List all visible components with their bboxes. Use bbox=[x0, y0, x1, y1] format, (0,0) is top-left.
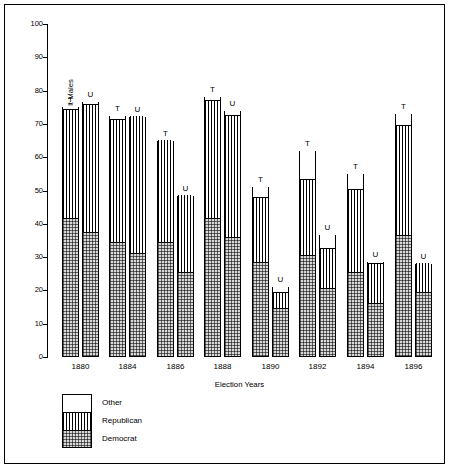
segment-divider bbox=[348, 189, 363, 190]
x-tick-label-1880: 1880 bbox=[66, 362, 96, 371]
legend-swatch-box bbox=[62, 394, 92, 448]
segment-divider bbox=[300, 179, 315, 180]
bar-tag-t: T bbox=[349, 162, 363, 171]
y-tick-mark bbox=[43, 357, 48, 358]
segment-divider bbox=[368, 303, 383, 304]
legend-label-republican: Republican bbox=[102, 416, 142, 425]
bar-tag-u: U bbox=[179, 184, 193, 193]
stacked-bar[interactable] bbox=[415, 264, 432, 357]
bar-tag-u: U bbox=[274, 275, 288, 284]
bar-tag-u: U bbox=[84, 90, 98, 99]
segment-divider bbox=[83, 232, 98, 233]
stacked-bar[interactable] bbox=[82, 102, 99, 357]
segment-democrat bbox=[416, 293, 431, 356]
stacked-bar[interactable] bbox=[272, 287, 289, 357]
y-tick-mark bbox=[43, 24, 48, 25]
segment-republican bbox=[396, 126, 411, 236]
x-axis-label: Election Years bbox=[47, 380, 432, 389]
bar-tag-t: T bbox=[159, 129, 173, 138]
stacked-bar[interactable] bbox=[347, 174, 364, 357]
bar-tag-t: T bbox=[301, 139, 315, 148]
segment-democrat bbox=[225, 238, 240, 356]
segment-democrat bbox=[253, 263, 268, 356]
segment-divider bbox=[396, 125, 411, 126]
y-tick-mark bbox=[43, 157, 48, 158]
segment-democrat bbox=[130, 254, 145, 356]
segment-democrat bbox=[83, 233, 98, 356]
bar-tag-t: T bbox=[64, 95, 78, 104]
bar-tag-t: T bbox=[397, 102, 411, 111]
segment-democrat bbox=[158, 243, 173, 356]
segment-divider bbox=[178, 272, 193, 273]
segment-divider bbox=[158, 242, 173, 243]
segment-republican bbox=[348, 190, 363, 273]
y-tick-mark bbox=[43, 91, 48, 92]
segment-republican bbox=[253, 198, 268, 263]
stacked-bar[interactable] bbox=[62, 107, 79, 357]
segment-republican bbox=[273, 293, 288, 310]
legend-label-democrat: Democrat bbox=[102, 434, 137, 443]
y-tick-label-text: 40 bbox=[35, 220, 43, 228]
legend-swatch-republican bbox=[63, 413, 91, 430]
segment-divider bbox=[83, 104, 98, 105]
y-tick-label-text: 0 bbox=[39, 353, 43, 361]
segment-other bbox=[348, 173, 363, 190]
y-tick-mark bbox=[43, 324, 48, 325]
segment-divider bbox=[253, 262, 268, 263]
segment-divider bbox=[348, 272, 363, 273]
y-tick-label-text: 70 bbox=[35, 120, 43, 128]
bar-tag-u: U bbox=[417, 252, 431, 261]
segment-divider bbox=[273, 292, 288, 293]
x-tick-label-1888: 1888 bbox=[208, 362, 238, 371]
segment-republican bbox=[130, 116, 145, 254]
segment-other bbox=[396, 113, 411, 126]
segment-republican bbox=[178, 195, 193, 273]
segment-democrat bbox=[273, 309, 288, 356]
stacked-bar[interactable] bbox=[367, 262, 384, 357]
segment-divider bbox=[110, 242, 125, 243]
segment-republican bbox=[320, 249, 335, 289]
y-tick-label-text: 60 bbox=[35, 153, 43, 161]
segment-divider bbox=[253, 197, 268, 198]
x-tick-label-1894: 1894 bbox=[351, 362, 381, 371]
stacked-bar[interactable] bbox=[299, 151, 316, 357]
segment-democrat bbox=[205, 219, 220, 356]
bar-tag-t: T bbox=[206, 85, 220, 94]
y-tick-mark bbox=[43, 224, 48, 225]
stacked-bar[interactable] bbox=[395, 114, 412, 357]
segment-other bbox=[320, 234, 335, 249]
x-tick-label-1886: 1886 bbox=[161, 362, 191, 371]
bar-tag-u: U bbox=[369, 250, 383, 259]
x-tick-label-1896: 1896 bbox=[399, 362, 429, 371]
segment-republican bbox=[158, 140, 173, 243]
segment-divider bbox=[225, 237, 240, 238]
stacked-bar[interactable] bbox=[319, 235, 336, 357]
stacked-bar[interactable] bbox=[224, 111, 241, 357]
segment-divider bbox=[110, 119, 125, 120]
bar-tag-t: T bbox=[254, 175, 268, 184]
segment-divider bbox=[205, 100, 220, 101]
y-tick-label-text: 100 bbox=[30, 20, 43, 28]
segment-democrat bbox=[368, 304, 383, 356]
segment-divider bbox=[300, 255, 315, 256]
bar-tag-u: U bbox=[321, 223, 335, 232]
x-tick-label-1884: 1884 bbox=[113, 362, 143, 371]
legend-label-other: Other bbox=[102, 398, 122, 407]
y-tick-label-text: 80 bbox=[35, 87, 43, 95]
stacked-bar[interactable] bbox=[129, 117, 146, 357]
legend-swatch-democrat bbox=[63, 431, 91, 447]
segment-republican bbox=[110, 120, 125, 243]
stacked-bar[interactable] bbox=[204, 97, 221, 357]
segment-divider bbox=[63, 218, 78, 219]
segment-divider bbox=[63, 109, 78, 110]
segment-democrat bbox=[178, 273, 193, 356]
segment-divider bbox=[320, 248, 335, 249]
y-tick-label-text: 30 bbox=[35, 253, 43, 261]
segment-republican bbox=[205, 101, 220, 219]
stacked-bar[interactable] bbox=[157, 141, 174, 357]
stacked-bar[interactable] bbox=[109, 116, 126, 357]
bar-tag-t: T bbox=[111, 104, 125, 113]
stacked-bar[interactable] bbox=[177, 196, 194, 358]
stacked-bar[interactable] bbox=[252, 187, 269, 357]
segment-republican bbox=[83, 105, 98, 233]
